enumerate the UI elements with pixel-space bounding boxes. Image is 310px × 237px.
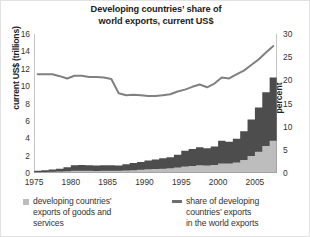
legend-share-line-1: share of developing — [186, 196, 259, 206]
plot-area — [34, 34, 277, 173]
y-tick-label-right: 15 — [283, 100, 307, 108]
x-tick-label: 1995 — [161, 177, 201, 187]
legend-square-swatch-icon — [23, 199, 29, 205]
chart-title: Developing countries’ share of world exp… — [1, 4, 310, 27]
y-tick-label-left: 16 — [6, 30, 30, 38]
chart-title-line-1: Developing countries’ share of — [1, 4, 310, 16]
y-tick-label-left: 10 — [6, 82, 30, 90]
line-share-percent — [38, 46, 274, 96]
y-tick-label-left: 12 — [6, 65, 30, 73]
chart-legend: developing countries’ exports of goods a… — [23, 196, 310, 230]
y-tick-label-left: 14 — [6, 47, 30, 55]
chart-title-line-2: world exports, current US$ — [1, 16, 310, 28]
legend-line-swatch-icon — [172, 200, 182, 203]
x-tick-label: 1975 — [14, 177, 54, 187]
y-tick-label-left: 4 — [6, 134, 30, 142]
area-exports-total — [34, 77, 277, 173]
chart-canvas — [34, 34, 277, 173]
y-tick-label-right: 5 — [283, 146, 307, 154]
y-tick-label-left: 8 — [6, 100, 30, 108]
legend-item-exports-label: developing countries’ exports of goods a… — [33, 196, 112, 230]
chart-figure: Developing countries’ share of world exp… — [0, 0, 310, 237]
x-tick-label: 2005 — [235, 177, 275, 187]
y-tick-label-right: 0 — [283, 169, 307, 177]
x-tick-label: 1985 — [88, 177, 128, 187]
y-tick-label-right: 20 — [283, 76, 307, 84]
legend-share-line-2: countries’ exports — [186, 207, 251, 217]
y-tick-label-right: 30 — [283, 30, 307, 38]
y-tick-label-right: 10 — [283, 123, 307, 131]
legend-share-line-3: in the world exports — [186, 218, 259, 228]
legend-exports-line-3: services — [33, 218, 64, 228]
x-tick-label: 2000 — [198, 177, 238, 187]
y-tick-label-right: 25 — [283, 53, 307, 61]
y-tick-label-left: 6 — [6, 117, 30, 125]
legend-exports-line-2: exports of goods and — [33, 207, 111, 217]
x-tick-label: 1980 — [51, 177, 91, 187]
legend-item-share-label: share of developing countries’ exports i… — [186, 196, 259, 230]
legend-exports-line-1: developing countries’ — [33, 196, 112, 206]
legend-item-exports: developing countries’ exports of goods a… — [23, 196, 162, 230]
y-tick-label-left: 0 — [6, 169, 30, 177]
y-tick-label-left: 2 — [6, 152, 30, 160]
x-tick-label: 1990 — [124, 177, 164, 187]
legend-item-share: share of developing countries’ exports i… — [172, 196, 310, 230]
